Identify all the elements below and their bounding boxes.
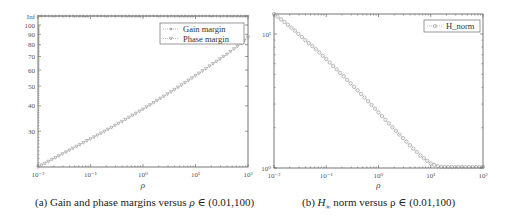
chart-b-legend: H_norm <box>424 20 480 32</box>
asterisk-marker-icon <box>170 28 173 31</box>
chart-a-ytick-label: 70 <box>28 53 36 61</box>
asterisk-marker-icon <box>75 15 78 18</box>
circle-marker-icon <box>342 75 345 78</box>
asterisk-marker-icon <box>142 15 145 18</box>
asterisk-marker-icon <box>198 15 201 18</box>
asterisk-marker-icon <box>68 15 71 18</box>
triangle-down-marker-icon <box>57 155 60 158</box>
asterisk-marker-icon <box>194 15 197 18</box>
triangle-down-marker-icon <box>131 114 134 117</box>
chart-b-ytick-label: 10⁰ <box>261 165 271 173</box>
chart-a-xtick-label: 10⁻² <box>32 171 45 179</box>
chart-b-ytick-label: 10¹ <box>262 31 271 39</box>
triangle-down-marker-icon <box>127 116 130 119</box>
chart-b: 10⁻²10⁻¹10⁰10¹10²10⁰10¹ρH_norm <box>261 12 487 190</box>
asterisk-marker-icon <box>117 15 120 18</box>
asterisk-marker-icon <box>152 15 155 18</box>
caption-a-prefix: (a) Gain and phase margins versus <box>35 196 189 208</box>
asterisk-marker-icon <box>149 15 152 18</box>
legend-label-phase-margin: Phase margin <box>183 34 230 44</box>
asterisk-marker-icon <box>89 15 92 18</box>
triangle-down-marker-icon <box>68 149 71 152</box>
chart-b-xtick-label: 10⁻² <box>268 172 281 180</box>
asterisk-marker-icon <box>201 15 204 18</box>
chart-b-xtick-label: 10⁻¹ <box>320 172 333 180</box>
circle-marker-icon <box>297 32 300 35</box>
asterisk-marker-icon <box>96 15 99 18</box>
triangle-down-marker-icon <box>71 147 74 150</box>
asterisk-marker-icon <box>61 15 64 18</box>
triangle-down-marker-icon <box>145 106 148 109</box>
chart-a-xlabel: ρ <box>140 180 146 190</box>
asterisk-marker-icon <box>219 15 222 18</box>
asterisk-marker-icon <box>240 15 243 18</box>
asterisk-marker-icon <box>215 15 218 18</box>
asterisk-marker-icon <box>121 15 124 18</box>
asterisk-marker-icon <box>72 15 75 18</box>
chart-a-ytick-label: Inf <box>27 13 36 21</box>
caption-a: (a) Gain and phase margins versus ρ ∈ (0… <box>35 196 254 209</box>
asterisk-marker-icon <box>243 15 246 18</box>
asterisk-marker-icon <box>233 15 236 18</box>
chart-a-ytick-label: 40 <box>28 102 36 110</box>
triangle-down-marker-icon <box>218 58 221 61</box>
chart-a: 10⁻²10⁻¹10⁰10¹10²30405060708090100InfρGa… <box>25 13 253 191</box>
triangle-down-marker-icon <box>190 77 193 80</box>
circle-marker-icon <box>363 96 366 99</box>
asterisk-marker-icon <box>82 15 85 18</box>
chart-a-ytick-label: 30 <box>28 128 36 136</box>
caption-b: (b) H∞ norm versus ρ ∈ (0.01,100) <box>302 196 455 211</box>
asterisk-marker-icon <box>229 15 232 18</box>
chart-b-plot-frame <box>274 14 483 168</box>
chart-b-xlabel: ρ <box>375 180 381 190</box>
triangle-down-marker-icon <box>54 156 57 159</box>
asterisk-marker-icon <box>226 15 229 18</box>
asterisk-marker-icon <box>103 15 106 18</box>
caption-b-suffix: norm versus ρ ∈ (0.01,100) <box>331 196 456 208</box>
circle-marker-icon <box>370 103 373 106</box>
asterisk-marker-icon <box>138 15 141 18</box>
circle-marker-icon <box>307 41 310 44</box>
caption-b-variable: H <box>318 196 326 208</box>
asterisk-marker-icon <box>128 15 131 18</box>
asterisk-marker-icon <box>222 15 225 18</box>
asterisk-marker-icon <box>173 15 176 18</box>
asterisk-marker-icon <box>54 15 57 18</box>
legend-label-gain-margin: Gain margin <box>183 24 226 34</box>
asterisk-marker-icon <box>236 15 239 18</box>
asterisk-marker-icon <box>86 15 89 18</box>
triangle-down-marker-icon <box>47 160 50 163</box>
triangle-down-marker-icon <box>43 162 46 165</box>
legend-label-h-norm: H_norm <box>446 21 475 31</box>
triangle-down-marker-icon <box>75 145 78 148</box>
asterisk-marker-icon <box>40 15 43 18</box>
asterisk-marker-icon <box>212 15 215 18</box>
asterisk-marker-icon <box>208 15 211 18</box>
asterisk-marker-icon <box>107 15 110 18</box>
asterisk-marker-icon <box>170 15 173 18</box>
chart-b-xtick-label: 10¹ <box>426 172 435 180</box>
chart-a-ytick-label: 90 <box>28 31 36 39</box>
triangle-down-marker-icon <box>64 151 67 154</box>
asterisk-marker-icon <box>156 15 159 18</box>
asterisk-marker-icon <box>247 15 250 18</box>
asterisk-marker-icon <box>163 15 166 18</box>
chart-b-xtick-label: 10⁰ <box>374 172 384 180</box>
chart-a-xtick-label: 10² <box>243 171 252 179</box>
asterisk-marker-icon <box>100 15 103 18</box>
triangle-down-marker-icon <box>50 158 53 161</box>
asterisk-marker-icon <box>47 15 50 18</box>
asterisk-marker-icon <box>145 15 148 18</box>
triangle-down-marker-icon <box>141 108 144 111</box>
caption-b-prefix: (b) <box>302 196 318 208</box>
triangle-down-marker-icon <box>138 110 141 113</box>
triangle-down-marker-icon <box>134 112 137 115</box>
triangle-down-marker-icon <box>61 153 64 156</box>
gain-margin-series <box>37 15 250 18</box>
chart-a-ytick-label: 50 <box>28 83 36 91</box>
figure-canvas: 10⁻²10⁻¹10⁰10¹10²30405060708090100InfρGa… <box>0 0 511 218</box>
circle-marker-icon <box>349 82 352 85</box>
chart-a-xtick-label: 10¹ <box>191 171 200 179</box>
asterisk-marker-icon <box>187 15 190 18</box>
asterisk-marker-icon <box>180 15 183 18</box>
